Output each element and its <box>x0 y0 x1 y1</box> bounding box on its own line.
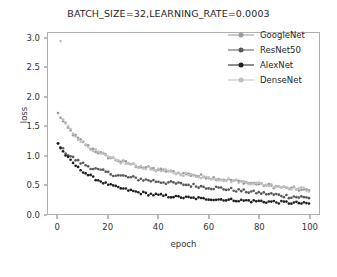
y-tick-label: 0.5 <box>26 180 40 190</box>
x-tick-mark <box>208 215 209 219</box>
x-tick-label: 60 <box>203 222 214 232</box>
x-tick-mark <box>158 215 159 219</box>
legend-item-alexnet[interactable]: AlexNet <box>228 58 305 71</box>
x-tick-mark <box>57 215 58 219</box>
legend-item-resnet50[interactable]: ResNet50 <box>228 43 305 56</box>
legend-marker-icon <box>228 29 254 40</box>
y-tick-label: 2.5 <box>26 62 40 72</box>
legend-marker-icon <box>228 59 254 70</box>
legend-label: AlexNet <box>260 60 293 70</box>
y-axis-label: loss <box>19 85 29 145</box>
x-tick-label: 0 <box>54 222 59 232</box>
legend-marker-icon <box>228 44 254 55</box>
legend-item-googlenet[interactable]: GoogleNet <box>228 28 305 41</box>
figure: BATCH_SIZE=32,LEARNING_RATE=0.0003 0.00.… <box>0 0 337 277</box>
legend-label: DenseNet <box>260 75 302 85</box>
legend: GoogleNetResNet50AlexNetDenseNet <box>228 28 305 86</box>
x-tick-label: 80 <box>254 222 265 232</box>
legend-marker-icon <box>228 74 254 85</box>
x-axis-label: epoch <box>47 239 320 249</box>
x-tick-label: 20 <box>102 222 113 232</box>
x-tick-mark <box>309 215 310 219</box>
legend-label: ResNet50 <box>260 45 301 55</box>
legend-item-densenet[interactable]: DenseNet <box>228 73 305 86</box>
y-tick-label: 1.0 <box>26 151 40 161</box>
x-tick-mark <box>259 215 260 219</box>
x-tick-label: 100 <box>302 222 318 232</box>
y-tick-label: 0.0 <box>26 210 40 220</box>
series-resnet50 <box>57 142 311 200</box>
legend-label: GoogleNet <box>260 30 305 40</box>
y-tick-label: 3.0 <box>26 33 40 43</box>
x-tick-mark <box>107 215 108 219</box>
x-tick-label: 40 <box>153 222 164 232</box>
x-axis-ticks: 020406080100 <box>47 215 320 239</box>
chart-title: BATCH_SIZE=32,LEARNING_RATE=0.0003 <box>0 8 337 19</box>
